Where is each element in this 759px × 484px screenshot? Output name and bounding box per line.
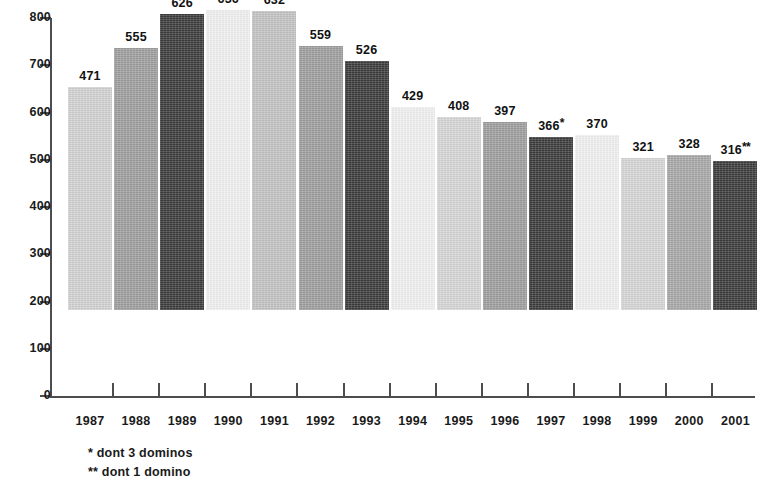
- plot-area: 471555626636632559526429408397366*370321…: [0, 0, 759, 398]
- bar-texture: [483, 122, 527, 310]
- bar-texture: [299, 46, 343, 310]
- bar-value-label: 370: [561, 118, 633, 131]
- bar-group[interactable]: 636: [206, 0, 250, 310]
- bar[interactable]: [575, 135, 619, 310]
- bar-texture: [529, 137, 573, 310]
- bar[interactable]: [252, 11, 296, 310]
- bar-group[interactable]: 526: [345, 35, 389, 310]
- bar[interactable]: [437, 117, 481, 310]
- bar[interactable]: [68, 87, 112, 310]
- bar-value-label: 632: [238, 0, 310, 7]
- footnote-double-asterisk: ** dont 1 domino: [88, 463, 193, 482]
- bar-value-footnote-mark: **: [742, 140, 750, 154]
- bar[interactable]: [621, 158, 665, 310]
- bar-texture: [68, 87, 112, 310]
- bar-texture: [206, 10, 250, 311]
- bar-group[interactable]: 626: [160, 0, 204, 310]
- bar-group[interactable]: 471: [68, 61, 112, 310]
- bar-texture: [621, 158, 665, 310]
- bar-group[interactable]: 366*: [529, 111, 573, 310]
- bar-value-label: 316**: [699, 144, 759, 157]
- bar-texture: [160, 14, 204, 310]
- x-axis-label-2001: 2001: [704, 414, 759, 428]
- bar[interactable]: [160, 14, 204, 310]
- bar[interactable]: [206, 10, 250, 311]
- bar-texture: [437, 117, 481, 310]
- bar-group[interactable]: 555: [114, 22, 158, 310]
- bar[interactable]: [713, 161, 757, 310]
- bar-group[interactable]: 632: [252, 0, 296, 310]
- bar-texture: [713, 161, 757, 310]
- bar-texture: [252, 11, 296, 310]
- bar[interactable]: [299, 46, 343, 310]
- bar[interactable]: [483, 122, 527, 310]
- bar-value-label: 526: [331, 44, 403, 57]
- bar-texture: [575, 135, 619, 310]
- footnotes: * dont 3 dominos ** dont 1 domino: [88, 444, 193, 482]
- bar-texture: [391, 107, 435, 310]
- bar-group[interactable]: 559: [299, 20, 343, 310]
- bar-group[interactable]: 316**: [713, 135, 757, 310]
- bar[interactable]: [114, 48, 158, 310]
- bar[interactable]: [391, 107, 435, 310]
- bar[interactable]: [529, 137, 573, 310]
- bar-texture: [114, 48, 158, 310]
- bar-group[interactable]: 408: [437, 91, 481, 310]
- bar-group[interactable]: 321: [621, 132, 665, 310]
- bar-texture: [667, 155, 711, 310]
- footnote-single-asterisk: * dont 3 dominos: [88, 444, 193, 463]
- bar-group[interactable]: 429: [391, 81, 435, 310]
- bar-chart: 8007006005004003002001000 47155562663663…: [0, 0, 759, 484]
- bar[interactable]: [667, 155, 711, 310]
- bar-group[interactable]: 370: [575, 109, 619, 310]
